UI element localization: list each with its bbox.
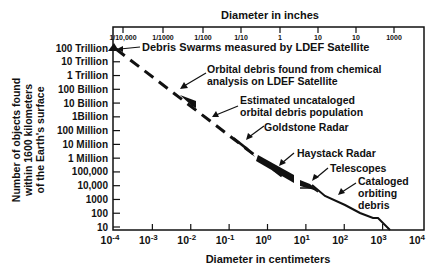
y-tick-label: 10 Trillion [61, 56, 108, 67]
annotation-goldstone: Goldstone Radar [264, 121, 349, 133]
annotation-telescopes: Telescopes [330, 162, 387, 174]
top-tick-label: 1 [278, 34, 282, 41]
x-tick-label: 10-3 [139, 233, 158, 246]
annotation-cataloged-line1: Cataloged [358, 175, 409, 187]
x-tick-label: 100 [255, 233, 272, 246]
annotation-ldef-swarms: Debris Swarms measured by LDEF Satellite [142, 41, 369, 53]
chemical-analysis-band [180, 95, 196, 108]
top-tick-label: 1000 [386, 34, 402, 41]
y-axis-title-line3: of the Earth's surface [34, 86, 46, 193]
x-tick-label: 104 [409, 233, 426, 246]
x-axis-title: Diameter in centimeters [206, 253, 331, 265]
y-axis-title-line1: Number of objects found [10, 78, 22, 202]
y-axis-title: Number of objects found within 1600 kilo… [10, 78, 46, 202]
y-tick-label: 10,000 [77, 180, 108, 191]
y-tick-label: 1Billion [72, 111, 108, 122]
top-tick-label: 1/10 [234, 34, 248, 41]
x-tick-label: 102 [332, 233, 349, 246]
y-tick-label: 100,000 [72, 166, 109, 177]
top-tick-label: 1/10,000 [109, 34, 136, 42]
y-tick-label: 10 [97, 222, 109, 233]
ldef-swarm-marker [108, 43, 119, 51]
y-tick-label: 1 Trillion [67, 70, 108, 81]
y-tick-label: 10 Billion [64, 98, 108, 109]
y-tick-label: 100 Trillion [56, 43, 108, 54]
x-tick-label: 10-4 [101, 233, 120, 246]
x-tick-label: 10-1 [216, 233, 235, 246]
x-tick-label: 10-2 [177, 233, 196, 246]
annotation-estimated-line1: Estimated uncataloged [240, 94, 355, 106]
y-tick-label: 1000 [86, 194, 109, 205]
y-tick-label: 100 Billion [58, 84, 108, 95]
top-tick-label: 10 [352, 34, 360, 41]
orbital-debris-chart: Diameter in inches 1/10,0001/10001/1001/… [0, 0, 443, 269]
y-tick-label: 100 [91, 208, 108, 219]
y-axis-title-line2: within 1600 kilometers [22, 84, 34, 197]
y-tick-label: 10 Million [62, 139, 108, 150]
annotation-estimated-line2: orbital debris population [240, 106, 363, 118]
y-axis: 100 Trillion10 Trillion1 Trillion100 Bil… [56, 43, 120, 233]
annotation-cataloged-line2: orbiting [358, 187, 397, 199]
x-tick-label: 101 [294, 233, 311, 246]
annotation-chemical-line1: Orbital debris found from chemical [207, 63, 382, 75]
y-tick-label: 1 Million [68, 153, 108, 164]
goldstone-radar-band [234, 137, 255, 157]
x-axis: 10-410-310-210-1100101102103104 [101, 224, 426, 246]
top-tick-label: 1/1000 [152, 34, 174, 41]
annotation-haystack: Haystack Radar [297, 147, 376, 159]
annotation-cataloged-line3: debris [358, 199, 390, 211]
top-axis-title: Diameter in inches [221, 9, 319, 21]
top-tick-label: 1/100 [194, 34, 212, 41]
x-tick-label: 103 [371, 233, 388, 246]
y-tick-label: 100 Million [57, 125, 108, 136]
top-axis: 1/10,0001/10001/1001/10110101000 [109, 27, 402, 42]
haystack-radar-band [256, 155, 294, 183]
annotation-chemical-line2: analysis on LDEF Satellite [207, 75, 338, 87]
top-tick-label: 10 [314, 34, 322, 41]
